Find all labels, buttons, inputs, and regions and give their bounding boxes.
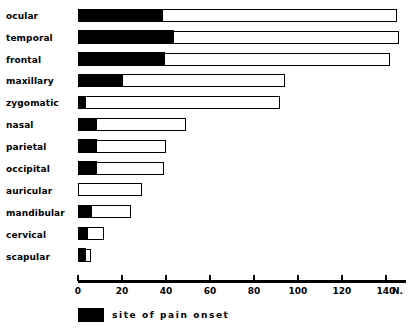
x-axis-tick-20	[121, 275, 123, 281]
x-axis-unit-label: N.	[392, 286, 403, 297]
bar-onset-segment	[78, 52, 165, 65]
bar-row	[78, 96, 280, 109]
x-axis-tick-40	[165, 275, 167, 281]
x-axis-tick-120	[341, 275, 343, 281]
bar-onset-segment	[78, 9, 163, 22]
bar-onset-segment	[78, 30, 174, 43]
bar-onset-segment	[78, 205, 93, 218]
legend: site of pain onset	[78, 308, 230, 322]
bar-onset-segment	[78, 227, 88, 240]
x-axis-line	[78, 280, 406, 283]
bar-onset-segment	[78, 139, 97, 152]
pain-site-bar-chart: ocular temporal frontal maxillary zygoma…	[0, 0, 412, 332]
legend-label-onset: site of pain onset	[112, 310, 230, 320]
bar-row	[78, 140, 166, 153]
bar-row	[78, 249, 91, 262]
bar-row	[78, 183, 142, 196]
category-label-ocular: ocular	[0, 10, 72, 22]
bar-onset-segment	[78, 74, 124, 87]
category-label-temporal: temporal	[0, 32, 72, 44]
x-axis-tick-label-80: 80	[239, 286, 269, 297]
bar-row	[78, 53, 390, 66]
bar-onset-segment	[78, 118, 97, 131]
category-label-occipital: occipital	[0, 163, 72, 175]
bar-row	[78, 74, 285, 87]
bar-onset-segment	[78, 161, 97, 174]
bar-row	[78, 162, 164, 175]
x-axis-tick-label-0: 0	[63, 286, 93, 297]
x-axis-tick-0	[77, 275, 79, 281]
x-axis-tick-60	[209, 275, 211, 281]
category-label-auricular: auricular	[0, 185, 72, 197]
x-axis-tick-label-100: 100	[283, 286, 313, 297]
legend-swatch-onset	[78, 308, 104, 322]
bar-row	[78, 205, 131, 218]
category-label-parietal: parietal	[0, 141, 72, 153]
x-axis-tick-label-20: 20	[107, 286, 137, 297]
category-label-zygomatic: zygomatic	[0, 97, 72, 109]
category-label-cervical: cervical	[0, 229, 72, 241]
x-axis-tick-label-40: 40	[151, 286, 181, 297]
category-label-frontal: frontal	[0, 54, 72, 66]
x-axis-tick-140	[385, 275, 387, 281]
category-label-maxillary: maxillary	[0, 75, 72, 87]
bar-row	[78, 31, 399, 44]
bar-row	[78, 227, 104, 240]
bar-onset-segment	[78, 248, 86, 261]
bar-row	[78, 9, 397, 22]
x-axis-tick-label-120: 120	[327, 286, 357, 297]
category-label-mandibular: mandibular	[0, 207, 72, 219]
category-label-scapular: scapular	[0, 251, 72, 263]
category-label-nasal: nasal	[0, 119, 72, 131]
x-axis-tick-100	[297, 275, 299, 281]
x-axis-tick-label-60: 60	[195, 286, 225, 297]
bar-onset-segment	[78, 96, 86, 109]
x-axis-tick-80	[253, 275, 255, 281]
bar-row	[78, 118, 186, 131]
